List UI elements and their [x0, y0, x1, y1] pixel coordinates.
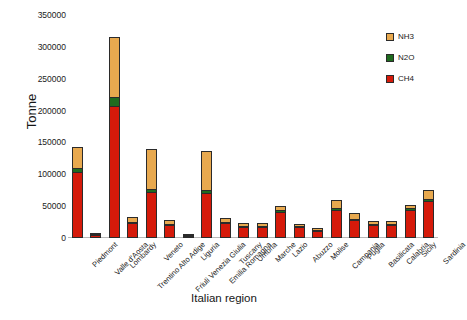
- bar-stack[interactable]: [331, 200, 342, 238]
- x-axis-title: Italian region: [0, 292, 448, 304]
- y-axis-tick-label: 50000: [20, 201, 66, 211]
- bar-stack[interactable]: [257, 223, 268, 238]
- bar-segment-ch4[interactable]: [423, 201, 434, 238]
- legend-item-n2o[interactable]: N2O: [386, 53, 414, 62]
- legend-swatch-icon: [386, 54, 394, 62]
- bar-segment-ch4[interactable]: [127, 223, 138, 238]
- x-axis-tick-label: Sardinia: [441, 240, 467, 266]
- bar-stack[interactable]: [220, 218, 231, 238]
- bar-segment-ch4[interactable]: [220, 223, 231, 238]
- bar-stack[interactable]: [183, 234, 194, 238]
- bar-segment-ch4[interactable]: [368, 225, 379, 238]
- bar-segment-ch4[interactable]: [257, 227, 268, 238]
- legend-swatch-icon: [386, 75, 394, 83]
- bar-segment-ch4[interactable]: [405, 210, 416, 238]
- bar-stack[interactable]: [201, 151, 212, 238]
- x-axis-line: [68, 237, 438, 238]
- bar-segment-nh3[interactable]: [201, 151, 212, 191]
- bar-segment-ch4[interactable]: [312, 231, 323, 238]
- bar-segment-nh3[interactable]: [72, 147, 83, 168]
- y-axis-tick-label: 300000: [20, 42, 66, 52]
- bar-stack[interactable]: [386, 221, 397, 238]
- y-axis: 0500001000001500002000002500003000003500…: [0, 0, 66, 320]
- bar-stack[interactable]: [109, 37, 120, 238]
- legend-item-ch4[interactable]: CH4: [386, 74, 414, 83]
- bar-segment-ch4[interactable]: [72, 172, 83, 238]
- legend-swatch-icon: [386, 33, 394, 41]
- bar-segment-nh3[interactable]: [423, 190, 434, 199]
- bar-stack[interactable]: [164, 220, 175, 238]
- bar-segment-ch4[interactable]: [275, 212, 286, 238]
- bar-stack[interactable]: [349, 213, 360, 238]
- bar-segment-ch4[interactable]: [146, 192, 157, 238]
- legend: NH3N2OCH4: [386, 32, 414, 83]
- bar-segment-ch4[interactable]: [238, 227, 249, 238]
- bar-stack[interactable]: [368, 221, 379, 238]
- bar-segment-ch4[interactable]: [201, 193, 212, 238]
- bar-segment-ch4[interactable]: [90, 235, 101, 238]
- plot-area: [68, 15, 438, 238]
- y-axis-title: Tonne: [24, 67, 39, 157]
- bar-segment-ch4[interactable]: [183, 236, 194, 238]
- legend-label: NH3: [398, 32, 414, 41]
- y-axis-tick-label: 350000: [20, 10, 66, 20]
- bar-stack[interactable]: [238, 223, 249, 238]
- bar-stack[interactable]: [146, 149, 157, 238]
- bar-segment-nh3[interactable]: [109, 37, 120, 98]
- legend-label: N2O: [398, 53, 414, 62]
- bar-stack[interactable]: [312, 228, 323, 238]
- legend-item-nh3[interactable]: NH3: [386, 32, 414, 41]
- bar-stack[interactable]: [90, 233, 101, 238]
- bar-segment-n2o[interactable]: [109, 97, 120, 106]
- bar-stack[interactable]: [72, 147, 83, 238]
- y-axis-tick-label: 100000: [20, 169, 66, 179]
- bar-segment-ch4[interactable]: [294, 227, 305, 238]
- bar-segment-nh3[interactable]: [146, 149, 157, 189]
- y-axis-tick-label: 0: [20, 233, 66, 243]
- bar-segment-ch4[interactable]: [349, 220, 360, 238]
- x-axis-tick-label: Piedmont: [91, 240, 120, 269]
- bar-stack[interactable]: [127, 217, 138, 238]
- bar-stack[interactable]: [294, 224, 305, 238]
- x-axis-tick-label: Puglia: [365, 240, 386, 261]
- bar-segment-nh3[interactable]: [331, 200, 342, 208]
- bar-stack[interactable]: [405, 205, 416, 238]
- bar-segment-ch4[interactable]: [331, 210, 342, 238]
- bar-segment-ch4[interactable]: [164, 225, 175, 238]
- bar-stack[interactable]: [423, 190, 434, 238]
- legend-label: CH4: [398, 74, 414, 83]
- bar-segment-ch4[interactable]: [109, 106, 120, 238]
- bar-segment-ch4[interactable]: [386, 225, 397, 238]
- bar-stack[interactable]: [275, 206, 286, 238]
